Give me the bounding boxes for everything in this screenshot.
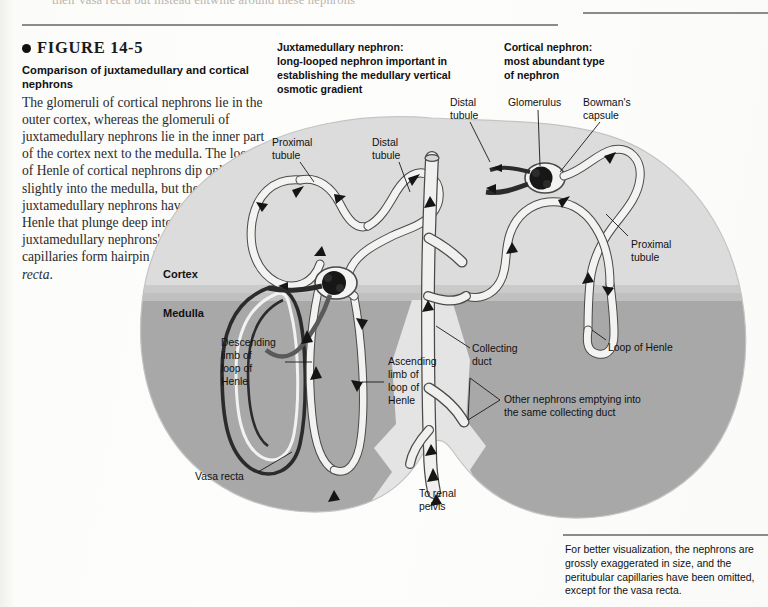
note-divider-rule — [563, 534, 768, 536]
label-collecting-duct: Collecting duct — [472, 342, 518, 368]
label-descending-limb: Descending limb of loop of Henle — [221, 336, 276, 388]
label-vasa-recta: Vasa recta — [195, 470, 244, 483]
label-other-nephrons: Other nephrons emptying into the same co… — [504, 393, 641, 419]
label-distal-tubule-mid: Distal tubule — [372, 136, 400, 162]
glomerulus-jm-tuft-b — [336, 284, 344, 292]
label-cortex: Cortex — [163, 268, 198, 282]
visualization-note: For better visualization, the nephrons a… — [565, 543, 768, 598]
glomerulus-jm-tuft-a — [324, 274, 332, 282]
glomerulus-cortical-tuft-b — [543, 180, 551, 188]
label-proximal-tubule-jm: Proximal tubule — [272, 136, 312, 162]
label-proximal-tubule-cortical: Proximal tubule — [631, 238, 671, 264]
glomerulus-jm — [322, 271, 346, 295]
label-medulla: Medulla — [163, 307, 204, 321]
glomerulus-cortical-tuft-a — [532, 169, 540, 177]
label-loop-of-henle: Loop of Henle — [608, 341, 673, 354]
label-distal-tubule-jm: Distal tubule — [450, 96, 478, 122]
label-bowmans-capsule: Bowman's capsule — [583, 96, 631, 122]
kidney-nephron-diagram — [0, 0, 768, 607]
label-ascending-limb: Ascending limb of loop of Henle — [388, 355, 437, 407]
collecting-duct-main-lumen — [428, 158, 434, 492]
collecting-duct-open-end — [425, 155, 439, 162]
label-to-renal-pelvis: To renal pelvis — [419, 487, 456, 513]
label-glomerulus: Glomerulus — [508, 96, 561, 109]
